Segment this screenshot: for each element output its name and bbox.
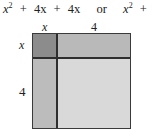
- top-label-4: 4: [91, 21, 97, 33]
- side-label-x: x: [19, 39, 24, 51]
- alt-term-x-squared-exponent: 2: [129, 1, 133, 10]
- plus-sign: +: [54, 2, 61, 16]
- side-label-4: 4: [19, 86, 26, 98]
- horizontal-divider: [33, 57, 130, 59]
- term-4x: 4x: [68, 2, 81, 16]
- plus-sign: +: [140, 2, 147, 16]
- region-4-by-x: [33, 58, 57, 128]
- term-4x-text: 4x: [34, 2, 47, 16]
- area-model-square: [32, 33, 131, 129]
- term-4x: 4x: [34, 2, 47, 16]
- expression-equation: x2 + 4x + 4x or x2 + 8x: [3, 2, 152, 17]
- region-x-by-x: [33, 34, 57, 58]
- vertical-divider: [56, 34, 58, 128]
- term-x-squared-exponent: 2: [9, 1, 13, 10]
- or-connector: or: [96, 2, 106, 16]
- plus-sign: +: [20, 2, 27, 16]
- region-4-by-4: [57, 58, 130, 128]
- top-label-x: x: [42, 21, 47, 33]
- region-x-by-4: [57, 34, 130, 58]
